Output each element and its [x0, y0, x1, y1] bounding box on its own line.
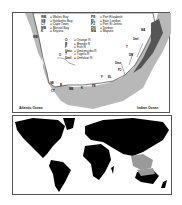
world-map-shapes — [13, 116, 173, 196]
south-africa-map: WB = Walvis Bay SB = Saldanha Bay CT = C… — [12, 12, 170, 113]
label-b: B — [60, 83, 62, 87]
label-sb: SB — [50, 81, 54, 85]
label-el: EL — [108, 75, 112, 79]
legend-rivers: O = Orange R B = Breede R F = Fish R Umz… — [65, 39, 97, 61]
world-map — [12, 115, 172, 195]
atlantic-ocean-label: Atlantic Ocean — [19, 106, 43, 110]
label-dn: DN — [129, 53, 133, 57]
legend-towns-left: WB = Walvis Bay SB = Saldanha Bay CT = C… — [41, 16, 73, 34]
label-o: O — [59, 53, 61, 57]
indian-ocean-label: Indian Ocean — [137, 106, 158, 110]
label-t: T — [126, 45, 128, 49]
label-ct: CT — [51, 89, 55, 93]
label-k: K — [81, 86, 83, 90]
label-mb: MB — [69, 87, 73, 91]
label-pj: PJ — [118, 68, 121, 72]
label-pe: PE — [92, 84, 96, 88]
label-umf: Umf — [133, 37, 138, 41]
label-f: F — [101, 75, 103, 79]
label-ma: MA — [141, 28, 145, 32]
label-wb: WB — [33, 35, 38, 39]
legend-towns-right: PE = Port Elizabeth EL = East London PJ … — [91, 16, 123, 34]
label-umz: Umz — [115, 61, 121, 65]
